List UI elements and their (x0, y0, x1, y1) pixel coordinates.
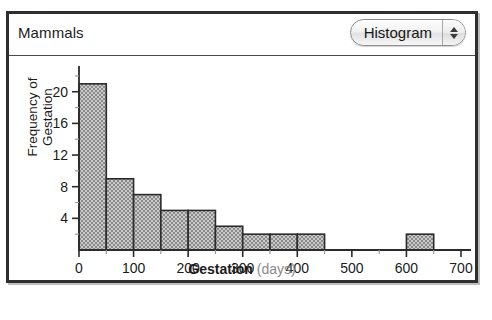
histogram-bar (406, 234, 433, 250)
plot-type-selected-value: Histogram (351, 20, 442, 45)
y-tick-label: 16 (52, 115, 68, 131)
bars-group (79, 84, 434, 250)
chart-area: Frequency of Gestation 01002003004005006… (9, 56, 475, 280)
histogram-bar (188, 210, 215, 250)
y-tick-label: 12 (52, 147, 68, 163)
plot-type-select[interactable]: Histogram (350, 19, 466, 46)
histogram-bar (79, 84, 106, 250)
plot-window: Mammals Histogram Frequency of Gestation… (6, 11, 478, 283)
y-tick-labels: 48121620 (52, 84, 68, 227)
histogram-bar (243, 234, 270, 250)
y-tick-label: 8 (60, 179, 68, 195)
y-tick-label: 4 (60, 210, 68, 226)
histogram-bar (134, 195, 161, 250)
x-axis-title: Gestation (days) (9, 261, 475, 277)
x-axis-title-main: Gestation (188, 261, 253, 277)
triangle-down-icon[interactable] (450, 34, 458, 39)
histogram-bar (161, 210, 188, 250)
histogram-bar (215, 226, 242, 250)
y-tick-label: 20 (52, 84, 68, 100)
histogram-svg: 0100200300400500600700 48121620 (9, 56, 475, 286)
page-title: Mammals (18, 24, 84, 41)
triangle-up-icon[interactable] (450, 27, 458, 32)
x-axis-title-units: (days) (257, 261, 296, 277)
plot-type-stepper[interactable] (442, 20, 465, 45)
histogram-bar (270, 234, 297, 250)
histogram-bar (106, 179, 133, 250)
histogram-bar (297, 234, 324, 250)
window-header: Mammals Histogram (9, 14, 475, 56)
